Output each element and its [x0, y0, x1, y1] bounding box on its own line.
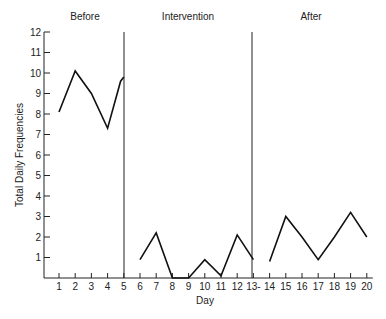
x-tick-label: 7	[153, 281, 159, 292]
y-tick-label: 2	[35, 232, 41, 243]
y-tick-label: 9	[35, 88, 41, 99]
x-tick-label: 15	[280, 281, 292, 292]
y-tick-label: 3	[35, 211, 41, 222]
y-tick-label: 5	[35, 170, 41, 181]
x-tick-label: 14	[264, 281, 276, 292]
y-tick-label: 10	[30, 68, 42, 79]
x-tick-label: 2	[72, 281, 78, 292]
y-tick-label: 12	[30, 27, 42, 38]
x-tick-label: 18	[329, 281, 341, 292]
data-lines	[59, 71, 367, 278]
y-tick-label: 4	[35, 191, 41, 202]
y-tick-label: 8	[35, 109, 41, 120]
phase-labels: BeforeInterventionAfter	[70, 11, 322, 22]
x-tick-label: 19	[345, 281, 357, 292]
x-axis-label: Day	[196, 295, 214, 306]
axes: 12345678910111212345678910111213-1415161…	[30, 27, 373, 293]
y-tick-label: 1	[35, 252, 41, 263]
phase-label: Intervention	[162, 11, 214, 22]
phase-label: Before	[70, 11, 100, 22]
y-tick-label: 6	[35, 150, 41, 161]
y-tick-label: 11	[31, 47, 42, 58]
y-tick-label: 7	[35, 129, 41, 140]
x-tick-label: 5	[121, 281, 127, 292]
x-tick-label: 11	[216, 281, 227, 292]
x-tick-label: 8	[170, 281, 176, 292]
phase-dividers	[124, 32, 252, 278]
x-tick-label: 16	[296, 281, 308, 292]
series-line-before	[59, 71, 124, 128]
x-tick-label: 9	[186, 281, 192, 292]
x-tick-label: 4	[105, 281, 111, 292]
x-tick-label: 12	[232, 281, 244, 292]
x-tick-label: 6	[137, 281, 143, 292]
line-chart: BeforeInterventionAfter 1234567891011121…	[0, 0, 386, 319]
x-tick-label: 1	[56, 281, 62, 292]
x-tick-label: 17	[313, 281, 325, 292]
phase-label: After	[300, 11, 322, 22]
x-tick-label: 10	[199, 281, 211, 292]
x-tick-label: 20	[361, 281, 373, 292]
x-tick-label: 3	[89, 281, 95, 292]
series-line-after	[270, 212, 367, 261]
series-line-intervention	[140, 233, 253, 278]
x-tick-label: 13-	[246, 281, 260, 292]
y-axis-label: Total Daily Frequencies	[14, 103, 25, 207]
